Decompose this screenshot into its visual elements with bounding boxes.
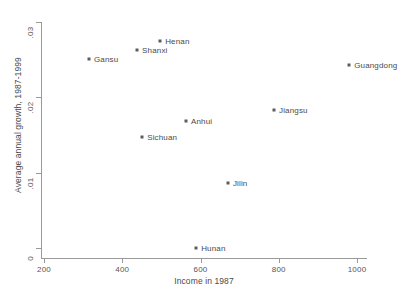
y-tick-mark xyxy=(36,22,41,23)
data-point-label: Henan xyxy=(165,36,189,45)
y-axis-title: Average annual growth, 1987-1999 xyxy=(13,25,23,225)
y-tick-label: .03 xyxy=(26,22,35,44)
x-tick-label: 200 xyxy=(37,265,51,274)
y-tick-label: .01 xyxy=(26,172,35,194)
x-axis-line xyxy=(41,258,367,259)
y-tick-mark xyxy=(36,97,41,98)
data-point-label: Hunan xyxy=(201,244,225,253)
x-tick-label: 600 xyxy=(194,265,208,274)
data-point-marker xyxy=(226,182,229,185)
scatter-chart-figure: 0.01.02.03 2004006008001000 GansuShanxiH… xyxy=(0,0,408,296)
data-point-marker xyxy=(185,119,188,122)
data-point-label: Shanxi xyxy=(142,45,167,54)
x-tick-label: 1000 xyxy=(348,265,367,274)
data-point-marker xyxy=(159,39,162,42)
x-tick-label: 800 xyxy=(272,265,286,274)
data-point-marker xyxy=(136,48,139,51)
y-tick-label: 0 xyxy=(26,248,35,270)
x-tick-label: 400 xyxy=(115,265,129,274)
data-point-marker xyxy=(195,247,198,250)
data-point-marker xyxy=(273,109,276,112)
y-tick-label: .02 xyxy=(26,97,35,119)
x-tick-mark xyxy=(44,258,45,263)
y-tick-mark xyxy=(36,173,41,174)
x-tick-mark xyxy=(357,258,358,263)
y-axis-line xyxy=(41,22,42,258)
data-point-label: Jiangsu xyxy=(279,106,308,115)
data-point-marker xyxy=(141,136,144,139)
x-tick-mark xyxy=(201,258,202,263)
y-tick-mark xyxy=(36,248,41,249)
data-point-marker xyxy=(87,57,90,60)
data-point-label: Sichuan xyxy=(147,133,177,142)
data-point-label: Gansu xyxy=(94,54,118,63)
data-point-label: Jilin xyxy=(233,179,248,188)
x-tick-mark xyxy=(122,258,123,263)
data-point-marker xyxy=(348,63,351,66)
data-point-label: Anhui xyxy=(191,116,212,125)
x-axis-title: Income in 1987 xyxy=(41,276,367,286)
data-point-label: Guangdong xyxy=(354,60,397,69)
x-tick-mark xyxy=(279,258,280,263)
